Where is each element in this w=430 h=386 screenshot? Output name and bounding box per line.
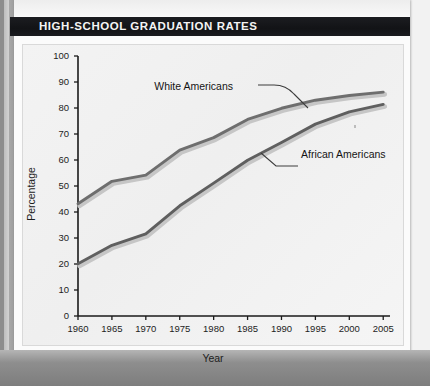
x-tick-label: 1980 bbox=[203, 323, 224, 334]
y-tick-label: 90 bbox=[58, 76, 69, 87]
x-tick-label: 1975 bbox=[169, 323, 190, 334]
x-axis-title: Year bbox=[168, 352, 258, 364]
african-americans-label: African Americans bbox=[301, 148, 386, 160]
x-tick-label: 2000 bbox=[339, 323, 360, 334]
white-americans-label: White Americans bbox=[154, 80, 233, 92]
y-tick-label: 30 bbox=[58, 232, 69, 243]
x-tick-label: 1965 bbox=[101, 323, 122, 334]
y-tick-label: 20 bbox=[58, 258, 69, 269]
x-tick-label: 1990 bbox=[271, 323, 292, 334]
x-tick-label: 1995 bbox=[305, 323, 326, 334]
y-tick-label: 80 bbox=[58, 102, 69, 113]
x-tick-label: 1970 bbox=[135, 323, 156, 334]
y-tick-label: 40 bbox=[58, 206, 69, 217]
y-axis-title: Percentage bbox=[25, 149, 37, 239]
y-tick-label: 50 bbox=[58, 180, 69, 191]
y-tick-label: 100 bbox=[53, 50, 69, 61]
page-top-shading bbox=[14, 0, 410, 16]
x-tick-label: 1960 bbox=[67, 323, 88, 334]
y-tick-label: 0 bbox=[64, 310, 69, 321]
y-tick-label: 60 bbox=[58, 154, 69, 165]
screenshot-root: HIGH-SCHOOL GRADUATION RATES 01020304050… bbox=[0, 0, 430, 386]
page-title: HIGH-SCHOOL GRADUATION RATES bbox=[39, 20, 258, 32]
y-tick-label: 70 bbox=[58, 128, 69, 139]
scan-speck bbox=[354, 125, 356, 128]
x-tick-label: 1985 bbox=[237, 323, 258, 334]
y-tick-label: 10 bbox=[58, 284, 69, 295]
x-tick-label: 2005 bbox=[373, 323, 394, 334]
